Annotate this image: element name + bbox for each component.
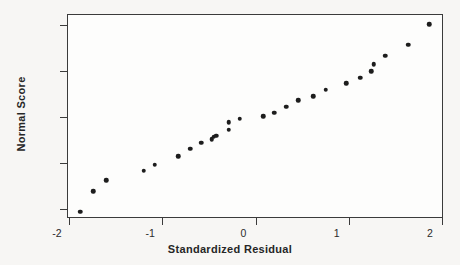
data-point [226, 127, 231, 132]
x-axis-tick [442, 218, 443, 225]
y-axis-tick [60, 163, 67, 164]
data-point [188, 147, 193, 152]
data-point [153, 163, 158, 168]
x-axis-tick-label: 1 [325, 227, 349, 239]
x-axis-tick-label: -2 [45, 227, 69, 239]
data-point [296, 98, 301, 103]
data-point [311, 94, 316, 99]
data-point [383, 54, 388, 59]
data-point [176, 154, 181, 159]
data-point [237, 117, 242, 122]
data-point [214, 134, 219, 139]
data-point [323, 88, 328, 93]
y-axis-tick [60, 25, 67, 26]
x-axis-tick-label: 0 [232, 227, 256, 239]
scatter-plot-area [68, 15, 442, 217]
data-point [406, 43, 411, 48]
data-point [261, 114, 266, 119]
data-point [272, 111, 277, 116]
y-axis-tick [60, 71, 67, 72]
plot-frame [67, 14, 443, 218]
data-point [199, 141, 204, 146]
data-point [104, 178, 109, 183]
data-point [141, 169, 146, 174]
qq-plot-screenshot: 210-1-2-2-1012 Standardized Residual Nor… [0, 0, 460, 265]
x-axis-tick-label: 2 [418, 227, 442, 239]
x-axis-tick [256, 218, 257, 225]
x-axis-tick [162, 218, 163, 225]
x-axis-label: Standardized Residual [0, 243, 460, 255]
y-axis-tick [60, 209, 67, 210]
data-point [358, 76, 363, 81]
data-point [369, 69, 374, 74]
data-point [344, 81, 349, 86]
data-point [91, 189, 96, 194]
x-axis-tick [349, 218, 350, 225]
x-axis-tick-label: -1 [138, 227, 162, 239]
data-point [372, 62, 377, 67]
data-point [226, 120, 231, 125]
data-point [427, 22, 432, 27]
y-axis-label: Normal Score [15, 49, 27, 179]
x-axis-tick [69, 218, 70, 225]
y-axis-tick [60, 117, 67, 118]
data-point [284, 104, 289, 109]
data-point [78, 210, 83, 215]
